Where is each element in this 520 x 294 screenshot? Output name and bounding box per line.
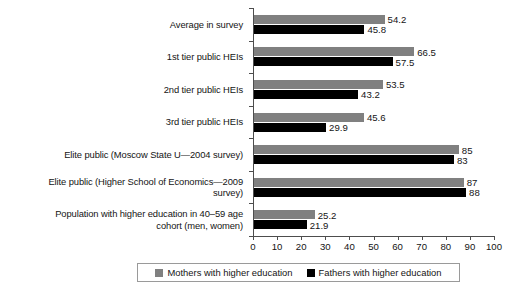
bar-value-label: 53.5 xyxy=(386,80,405,90)
bar-value-label: 54.2 xyxy=(388,15,407,25)
bar-fathers xyxy=(254,57,393,66)
x-axis-tick xyxy=(325,236,326,240)
x-axis-tick-label: 70 xyxy=(416,241,427,253)
bar-fathers xyxy=(254,90,358,99)
category-axis-labels: Average in survey1st tier public HEIs2nd… xyxy=(0,8,247,236)
x-axis-tick-label: 40 xyxy=(344,241,355,253)
x-axis-tick-label: 0 xyxy=(250,241,255,253)
x-axis-tick xyxy=(422,236,423,240)
category-label-line: Elite public (Moscow State U—2004 survey… xyxy=(0,149,243,161)
x-axis-tick xyxy=(349,236,350,240)
category-label: 2nd tier public HEIs xyxy=(0,84,247,96)
x-axis-tick-label: 20 xyxy=(296,241,307,253)
category-label: Average in survey xyxy=(0,19,247,31)
x-axis-tick-label: 90 xyxy=(465,241,476,253)
category-label: 3rd tier public HEIs xyxy=(0,116,247,128)
category-label-line: survey) xyxy=(0,187,243,199)
category-label-line: Average in survey xyxy=(0,19,243,31)
x-axis-tick-label: 50 xyxy=(368,241,379,253)
bar-fathers xyxy=(254,155,454,164)
x-axis-tick xyxy=(301,236,302,240)
plot-area: 0102030405060708090100 54.245.866.557.55… xyxy=(253,8,494,236)
y-axis-tick xyxy=(249,203,253,204)
x-axis-tick xyxy=(253,236,254,240)
bar-mothers xyxy=(254,80,383,89)
y-axis-tick xyxy=(249,41,253,42)
bar-value-label: 45.8 xyxy=(367,25,386,35)
bar-mothers xyxy=(254,15,385,24)
x-axis-tick xyxy=(470,236,471,240)
category-label-line: 1st tier public HEIs xyxy=(0,51,243,63)
legend-label: Mothers with higher education xyxy=(167,267,292,278)
legend-entry[interactable]: Fathers with higher education xyxy=(307,267,442,278)
bar-value-label: 29.9 xyxy=(329,123,348,133)
category-label-line: 2nd tier public HEIs xyxy=(0,84,243,96)
bar-fathers xyxy=(254,123,326,132)
bar-value-label: 66.5 xyxy=(417,48,436,58)
x-axis-tick-label: 30 xyxy=(320,241,331,253)
category-label-line: Elite public (Higher School of Economics… xyxy=(0,176,243,188)
bar-value-label: 57.5 xyxy=(396,58,415,68)
category-label: Population with higher education in 40–5… xyxy=(0,208,247,231)
x-axis-tick xyxy=(277,236,278,240)
gray-square-icon xyxy=(155,269,163,277)
y-axis-tick xyxy=(249,138,253,139)
category-label: Elite public (Moscow State U—2004 survey… xyxy=(0,149,247,161)
y-axis-tick xyxy=(249,171,253,172)
bar-fathers xyxy=(254,220,307,229)
bar-mothers xyxy=(254,113,364,122)
bar-mothers xyxy=(254,145,459,154)
bar-value-label: 45.6 xyxy=(367,113,386,123)
bar-fathers xyxy=(254,25,364,34)
bar-mothers xyxy=(254,47,414,56)
category-label-line: 3rd tier public HEIs xyxy=(0,116,243,128)
x-axis-tick-label: 100 xyxy=(486,241,502,253)
black-square-icon xyxy=(307,269,315,277)
legend-label: Fathers with higher education xyxy=(319,267,442,278)
x-axis-tick xyxy=(374,236,375,240)
x-axis-tick-label: 10 xyxy=(272,241,283,253)
category-label-line: cohort (men, women) xyxy=(0,220,243,232)
bar-value-label: 88 xyxy=(469,188,480,198)
x-axis-tick-label: 80 xyxy=(440,241,451,253)
y-axis-tick xyxy=(249,8,253,9)
y-axis-tick xyxy=(249,73,253,74)
x-axis-tick xyxy=(494,236,495,240)
x-axis-tick xyxy=(446,236,447,240)
bar-fathers xyxy=(254,188,466,197)
chart-legend: Mothers with higher educationFathers wit… xyxy=(137,263,460,282)
bar-chart: Average in survey1st tier public HEIs2nd… xyxy=(0,0,520,294)
x-axis-tick xyxy=(398,236,399,240)
y-axis-tick xyxy=(249,106,253,107)
bar-value-label: 21.9 xyxy=(310,221,329,231)
bar-value-label: 43.2 xyxy=(361,90,380,100)
legend-entry[interactable]: Mothers with higher education xyxy=(155,267,292,278)
bar-mothers xyxy=(254,178,464,187)
category-label: 1st tier public HEIs xyxy=(0,51,247,63)
x-axis-tick-label: 60 xyxy=(392,241,403,253)
bar-mothers xyxy=(254,210,315,219)
bar-value-label: 83 xyxy=(457,156,468,166)
category-label: Elite public (Higher School of Economics… xyxy=(0,176,247,199)
category-label-line: Population with higher education in 40–5… xyxy=(0,208,243,220)
